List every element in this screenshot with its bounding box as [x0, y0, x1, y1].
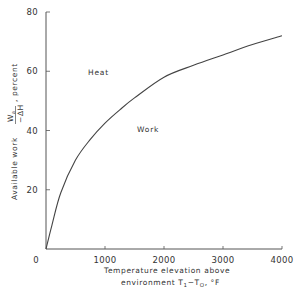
work-curve	[46, 36, 282, 249]
y-tick-label: 60	[27, 66, 38, 76]
y-tick-label: 40	[27, 126, 38, 136]
x-tick-label: 2000	[153, 255, 176, 265]
x-tick-label: 4000	[271, 255, 294, 265]
y-tick-label: 80	[27, 7, 38, 17]
x-tick-label: 1000	[94, 255, 117, 265]
x-tick-label: 3000	[212, 255, 235, 265]
heat-region-label: Heat	[88, 68, 109, 77]
y-tick-label: 20	[27, 185, 38, 195]
y-axis-label-numerator: Wa	[6, 110, 16, 122]
y-axis-label-suffix: , percent	[10, 63, 19, 102]
x-axis-label-line2: environment T1−TO, °F	[121, 278, 220, 288]
y-axis-label: Available work Wa −ΔH , percent	[6, 63, 25, 200]
x-axis-label-line1: Temperature elevation above	[103, 266, 230, 275]
work-region-label: Work	[137, 125, 159, 134]
y-axis-label-prefix: Available work	[10, 137, 19, 200]
x-tick-label: 0	[33, 255, 39, 265]
y-axis-label-denominator: −ΔH	[16, 104, 25, 123]
line-chart: 01000200030004000 20406080 Heat Work Tem…	[0, 0, 299, 295]
chart-container: 01000200030004000 20406080 Heat Work Tem…	[0, 0, 299, 295]
